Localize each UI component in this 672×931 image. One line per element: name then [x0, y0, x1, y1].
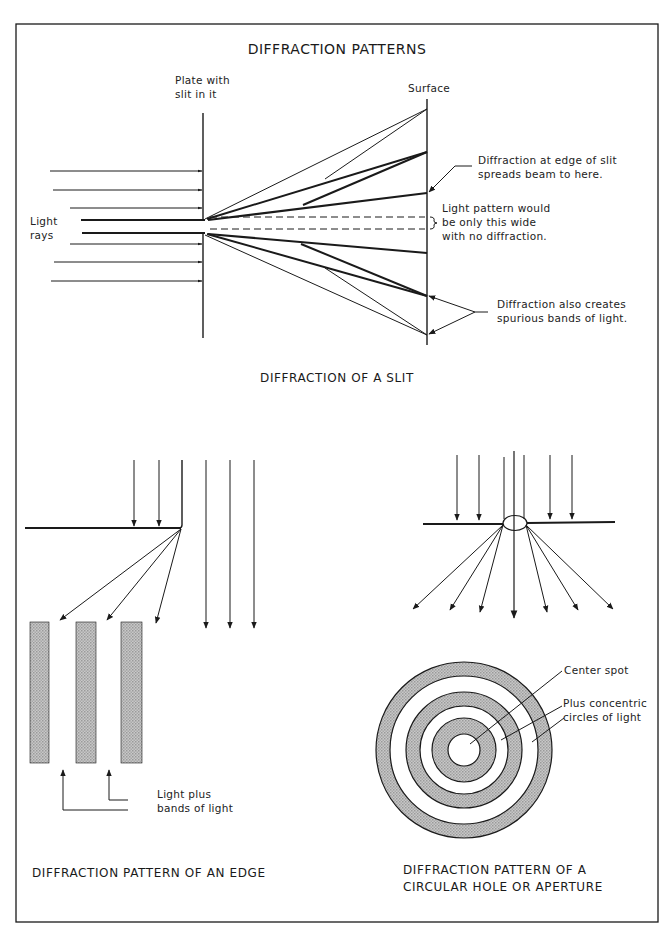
rings-label: circles of light: [563, 711, 641, 723]
edge-plate: [179, 460, 182, 528]
surface-label: Surface: [408, 82, 450, 94]
light-band: [121, 622, 142, 763]
slit-diagram: Plate with slit in it Surface Light rays: [30, 74, 627, 385]
pattern-label: with no diffraction.: [442, 230, 547, 242]
rays-label: Light: [30, 215, 58, 227]
brace-icon: [430, 217, 437, 229]
aperture-caption: DIFFRACTION PATTERN OF A: [403, 863, 587, 877]
light-band: [76, 622, 96, 763]
rings-label: Plus concentric: [563, 697, 647, 709]
incoming-rays: [50, 171, 205, 281]
slit-caption: DIFFRACTION OF A SLIT: [260, 371, 414, 385]
diffracted-rays-upper: [205, 109, 427, 220]
aperture-caption: CIRCULAR HOLE OR APERTURE: [403, 880, 603, 894]
plate-label: slit in it: [175, 88, 217, 100]
edge-caption: DIFFRACTION PATTERN OF AN EDGE: [32, 866, 266, 880]
center-spot-label: Center spot: [564, 664, 629, 676]
aperture-hole: [503, 516, 527, 531]
spurious-label: spurious bands of light.: [497, 312, 627, 324]
edge-spread-label: Diffraction at edge of slit: [478, 154, 617, 166]
aperture-diagram: Center spot Plus concentric circles of l…: [376, 451, 647, 894]
pattern-label: be only this wide: [442, 216, 536, 228]
concentric-rings: [376, 662, 552, 838]
edge-diagram: Light plus bands of light DIFFRACTION PA…: [25, 460, 266, 880]
diffracted-rays-lower: [205, 234, 427, 335]
rays-label: rays: [30, 229, 54, 241]
diffraction-diagram: DIFFRACTION PATTERNS Plate with slit in …: [0, 0, 672, 931]
spurious-label: Diffraction also creates: [497, 298, 626, 310]
aperture-plate: [527, 522, 615, 523]
plate-label: Plate with: [175, 74, 230, 86]
bands-label: Light plus: [157, 788, 211, 800]
page-title: DIFFRACTION PATTERNS: [248, 41, 427, 57]
annotation-leader: [429, 296, 475, 312]
annotation-leader: [429, 166, 472, 192]
light-band: [30, 622, 49, 763]
annotation-leader: [429, 312, 475, 334]
pattern-label: Light pattern would: [442, 202, 550, 214]
bands-label: bands of light: [157, 802, 233, 814]
edge-spread-label: spreads beam to here.: [478, 168, 603, 180]
